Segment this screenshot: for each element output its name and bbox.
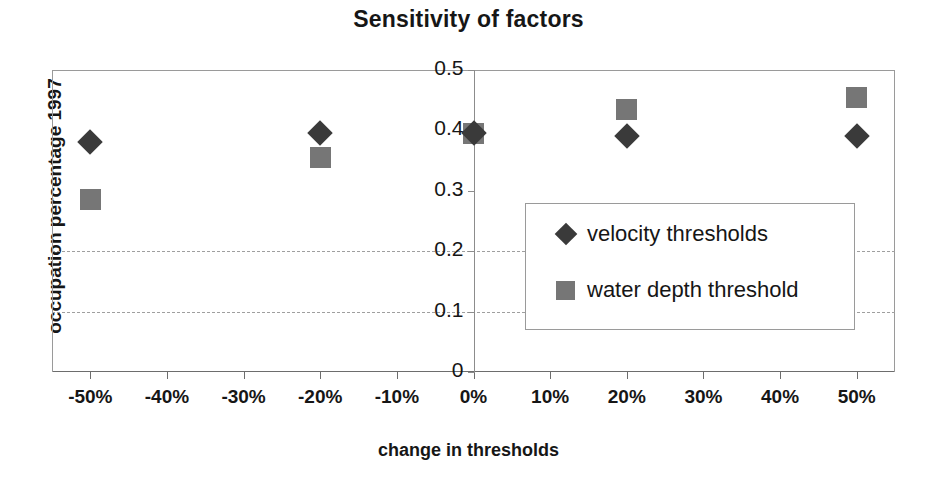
x-axis-tick-label: -40% [127, 386, 207, 408]
chart-legend: velocity thresholds water depth threshol… [525, 203, 855, 330]
legend-label-velocity-thresholds: velocity thresholds [587, 221, 768, 247]
y-axis-tick-label: 0.2 [404, 237, 464, 261]
y-axis-tick [468, 70, 475, 71]
y-axis-tick [468, 251, 475, 252]
legend-label-water-depth-threshold: water depth threshold [587, 277, 799, 303]
sensitivity-chart: Sensitivity of factors occupation percen… [0, 0, 937, 491]
x-axis-title: change in thresholds [0, 440, 937, 461]
data-point-diamond [78, 130, 103, 155]
x-axis-tick [397, 372, 398, 379]
x-axis-tick [320, 372, 321, 379]
x-axis-tick-label: 0% [434, 386, 514, 408]
x-axis-tick-label: 50% [817, 386, 897, 408]
x-axis-tick-label: 20% [587, 386, 667, 408]
plot-border-right [894, 70, 895, 372]
square-marker-icon [553, 277, 587, 303]
x-axis-tick-label: 30% [663, 386, 743, 408]
y-axis-tick-label: 0.1 [404, 298, 464, 322]
data-point-diamond [614, 124, 639, 149]
data-point-square [80, 189, 101, 210]
y-axis-tick [468, 191, 475, 192]
x-axis-tick [474, 372, 475, 379]
x-axis-tick-label: -10% [357, 386, 437, 408]
x-axis-tick-label: -20% [280, 386, 360, 408]
x-axis-tick-label: -30% [204, 386, 284, 408]
x-axis-tick [857, 372, 858, 379]
data-point-square [846, 87, 867, 108]
x-axis-tick [90, 372, 91, 379]
y-axis-tick [468, 372, 475, 373]
data-point-diamond [844, 124, 869, 149]
y-axis-tick-label: 0.5 [404, 56, 464, 80]
value-axis-line [474, 70, 475, 373]
y-axis-tick-label: 0.3 [404, 177, 464, 201]
x-axis-tick-label: 40% [740, 386, 820, 408]
data-point-square [616, 99, 637, 120]
y-axis-tick-label: 0 [404, 358, 464, 382]
x-axis-tick [550, 372, 551, 379]
x-axis-tick [244, 372, 245, 379]
x-axis-tick [627, 372, 628, 379]
x-axis-tick [167, 372, 168, 379]
x-axis-tick [780, 372, 781, 379]
data-point-square [310, 147, 331, 168]
x-axis-tick-label: -50% [50, 386, 130, 408]
x-axis-tick-label: 10% [510, 386, 590, 408]
diamond-marker-icon [553, 221, 587, 247]
y-axis-tick [468, 312, 475, 313]
legend-item-water-depth-threshold: water depth threshold [553, 277, 799, 303]
legend-item-velocity-thresholds: velocity thresholds [553, 221, 768, 247]
chart-title: Sensitivity of factors [0, 6, 937, 33]
plot-border-left [52, 70, 53, 372]
y-axis-tick-label: 0.4 [404, 116, 464, 140]
x-axis-tick [703, 372, 704, 379]
data-point-diamond [307, 121, 332, 146]
